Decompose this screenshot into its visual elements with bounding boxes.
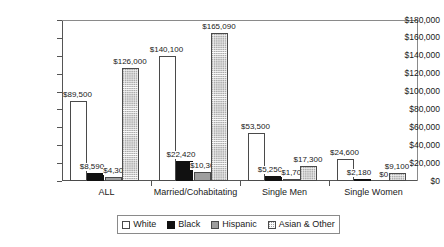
legend-label: Asian & Other: [279, 220, 335, 229]
bar-value-label: $5,250: [257, 166, 282, 174]
bar-value-label: $0: [379, 171, 389, 179]
y-axis-tick-mark: [57, 181, 62, 182]
bar: [122, 68, 139, 181]
bar: [354, 179, 371, 181]
bar-value-label: $53,500: [241, 123, 271, 131]
legend-item[interactable]: Hispanic: [211, 220, 257, 229]
y-axis-tick-mark: [57, 20, 62, 21]
y-axis-tick-mark: [57, 145, 62, 146]
plot-right-border: [417, 20, 418, 181]
plot-top-border: [62, 20, 418, 21]
legend-item[interactable]: White: [122, 220, 156, 229]
y-axis-tick-label: $40,000: [382, 141, 440, 150]
legend-swatch-icon: [211, 221, 219, 229]
bar: [300, 166, 317, 181]
bar-value-label: $17,300: [293, 156, 323, 164]
legend-label: White: [133, 220, 156, 229]
y-axis-tick-label: $80,000: [382, 105, 440, 114]
legend-swatch-icon: [268, 221, 276, 229]
plot-area: [62, 20, 418, 181]
chart-legend: WhiteBlackHispanicAsian & Other: [117, 215, 340, 234]
y-axis-tick-mark: [57, 109, 62, 110]
legend-item[interactable]: Asian & Other: [268, 220, 335, 229]
y-axis-tick-label: $180,000: [382, 16, 440, 25]
bar: [105, 177, 122, 181]
bar-value-label: $126,000: [113, 58, 147, 66]
legend-label: Hispanic: [222, 220, 257, 229]
x-axis-group-tick: [329, 181, 330, 186]
bar: [283, 179, 300, 181]
bar-value-label: $89,500: [63, 91, 93, 99]
y-axis-tick-label: $140,000: [382, 51, 440, 60]
bar: [194, 172, 211, 181]
y-axis-tick-mark: [57, 38, 62, 39]
y-axis-tick-label: $100,000: [382, 87, 440, 96]
y-axis-tick-mark: [57, 56, 62, 57]
y-axis-tick-mark: [57, 92, 62, 93]
bar: [159, 56, 176, 181]
legend-swatch-icon: [122, 221, 130, 229]
bar-value-label: $22,420: [166, 151, 196, 159]
x-axis-group-tick: [151, 181, 152, 186]
y-axis-tick-label: $60,000: [382, 123, 440, 132]
bar: [389, 173, 406, 181]
x-axis-category-label: Single Women: [304, 188, 444, 197]
x-axis-group-tick: [240, 181, 241, 186]
legend-item[interactable]: Black: [167, 220, 200, 229]
bar-value-label: $165,090: [202, 23, 236, 31]
y-axis-tick-label: $120,000: [382, 69, 440, 78]
bar-value-label: $8,590: [79, 163, 104, 171]
bar-value-label: $140,100: [149, 46, 183, 54]
legend-label: Black: [178, 220, 200, 229]
bar: [87, 173, 104, 181]
bar: [211, 33, 228, 181]
y-axis-tick-mark: [57, 74, 62, 75]
y-axis-tick-mark: [57, 127, 62, 128]
bar: [265, 176, 282, 181]
bar-value-label: $9,100: [384, 163, 409, 171]
y-axis-tick-label: $160,000: [382, 33, 440, 42]
bar-value-label: $2,180: [346, 169, 371, 177]
bar-value-label: $24,600: [330, 149, 360, 157]
y-axis-tick-mark: [57, 163, 62, 164]
legend-swatch-icon: [167, 221, 175, 229]
